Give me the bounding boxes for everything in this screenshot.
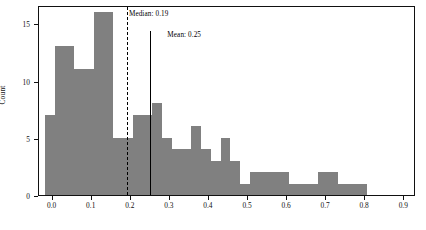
histogram-bar xyxy=(260,172,270,195)
x-tick-label: 0.3 xyxy=(164,201,173,210)
x-tick xyxy=(130,196,131,200)
histogram-bar xyxy=(221,138,231,195)
x-tick-label: 0.9 xyxy=(399,201,408,210)
histogram-bar xyxy=(289,184,299,195)
histogram-bar xyxy=(211,161,221,195)
histogram-bar xyxy=(74,69,84,195)
histogram-bar xyxy=(309,184,319,195)
y-tick-label: 0 xyxy=(8,192,30,201)
histogram-bar xyxy=(162,138,172,195)
x-tick xyxy=(364,196,365,200)
y-axis-label: Count xyxy=(0,85,7,104)
histogram-bar xyxy=(45,115,55,195)
x-tick xyxy=(247,196,248,200)
mean-line xyxy=(150,31,151,195)
x-tick xyxy=(169,196,170,200)
median-line xyxy=(127,7,128,195)
histogram-bar xyxy=(152,103,162,195)
histogram-figure: Count 051015 Median: 0.19Mean: 0.25 0.00… xyxy=(0,0,426,230)
histogram-bar xyxy=(318,172,328,195)
histogram-bar xyxy=(55,46,65,195)
x-tick-label: 0.7 xyxy=(321,201,330,210)
x-tick xyxy=(286,196,287,200)
histogram-bar xyxy=(328,172,338,195)
x-tick-label: 0.8 xyxy=(360,201,369,210)
x-tick-label: 0.6 xyxy=(281,201,290,210)
x-tick xyxy=(91,196,92,200)
y-tick xyxy=(34,196,38,197)
histogram-bar xyxy=(172,149,182,195)
histogram-bar xyxy=(103,12,113,195)
x-tick-label: 0.0 xyxy=(47,201,56,210)
y-tick-label: 10 xyxy=(8,77,30,86)
histogram-bar xyxy=(240,184,250,195)
x-tick xyxy=(208,196,209,200)
plot-area xyxy=(38,6,415,196)
histogram-bar xyxy=(113,138,123,195)
mean-label: Mean: 0.25 xyxy=(167,31,201,39)
median-label: Median: 0.19 xyxy=(129,10,169,18)
histogram-bar xyxy=(182,149,192,195)
x-tick-label: 0.4 xyxy=(203,201,212,210)
histogram-bar xyxy=(348,184,358,195)
histogram-bar xyxy=(250,172,260,195)
x-tick-label: 0.1 xyxy=(86,201,95,210)
histogram-bar xyxy=(269,172,279,195)
histogram-bar xyxy=(191,126,201,195)
x-tick xyxy=(403,196,404,200)
x-tick xyxy=(325,196,326,200)
y-tick-label: 15 xyxy=(8,20,30,29)
histogram-bar xyxy=(64,46,74,195)
x-tick-label: 0.2 xyxy=(125,201,134,210)
histogram-bars xyxy=(39,7,414,195)
x-tick-label: 0.5 xyxy=(242,201,251,210)
histogram-bar xyxy=(94,12,104,195)
histogram-bar xyxy=(357,184,367,195)
histogram-bar xyxy=(299,184,309,195)
x-tick xyxy=(52,196,53,200)
histogram-bar xyxy=(133,115,143,195)
y-tick-label: 5 xyxy=(8,134,30,143)
histogram-bar xyxy=(279,172,289,195)
histogram-bar xyxy=(230,161,240,195)
histogram-bar xyxy=(338,184,348,195)
histogram-bar xyxy=(84,69,94,195)
histogram-bar xyxy=(201,149,211,195)
